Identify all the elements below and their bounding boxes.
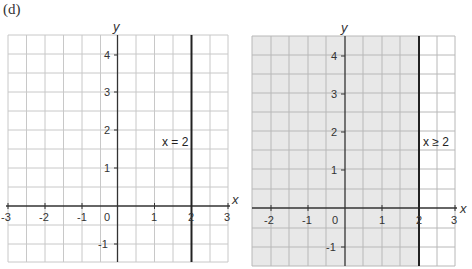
right-x-tick: -1 (302, 214, 312, 226)
left-line-label: x = 2 (162, 135, 189, 149)
left-x-tick: -2 (39, 211, 49, 223)
right-x-axis-label: x (459, 201, 467, 216)
left-x-tick: 2 (188, 211, 194, 223)
right-x-tick: 0 (332, 214, 338, 226)
right-x-tick: 3 (451, 214, 457, 226)
left-x-axis-label: x (231, 192, 239, 207)
left-y-tick: -1 (98, 238, 108, 250)
right-y-tick: 3 (331, 88, 337, 100)
left-y-axis-label: y (112, 19, 121, 34)
left-y-tick: 1 (104, 162, 110, 174)
right-y-tick: 2 (331, 126, 337, 138)
right-x-tick: 1 (379, 214, 385, 226)
right-shaded-region (252, 36, 419, 266)
left-y-tick: 2 (104, 124, 110, 136)
left-graph: y x 4 3 2 1 -1 -3 -2 -1 0 1 2 3 x = 2 (1, 19, 239, 262)
left-x-tick: 1 (151, 211, 157, 223)
left-x-tick: -1 (77, 211, 87, 223)
right-y-tick: 1 (331, 164, 337, 176)
left-x-tick: -3 (1, 211, 11, 223)
left-y-tick: 4 (104, 49, 110, 61)
right-y-tick: 4 (331, 50, 337, 62)
left-x-tick: 0 (104, 211, 110, 223)
right-y-tick: -1 (326, 241, 336, 253)
right-graph: y x 4 3 2 1 -1 -2 -1 0 1 2 3 x ≥ 2 (252, 20, 467, 266)
right-x-tick: -2 (264, 214, 274, 226)
right-y-axis-label: y (340, 20, 349, 35)
graphs-canvas: y x 4 3 2 1 -1 -3 -2 -1 0 1 2 3 x = 2 (0, 0, 472, 269)
left-y-tick: 3 (104, 86, 110, 98)
right-x-tick: 2 (416, 214, 422, 226)
right-line-label: x ≥ 2 (423, 135, 449, 149)
left-x-tick: 3 (224, 211, 230, 223)
